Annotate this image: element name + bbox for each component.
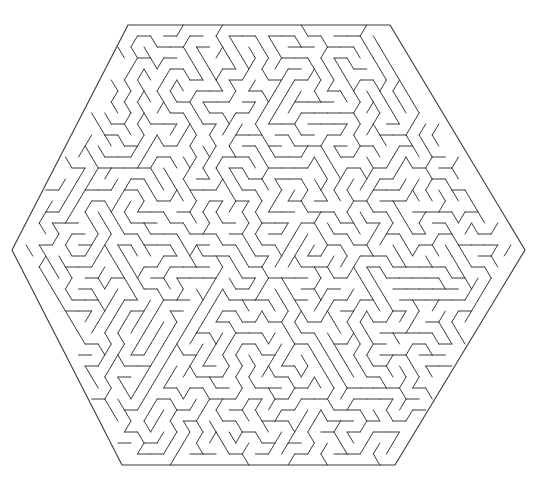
maze-figure xyxy=(0,0,541,498)
background-rect xyxy=(0,0,541,498)
maze-canvas xyxy=(0,0,541,498)
